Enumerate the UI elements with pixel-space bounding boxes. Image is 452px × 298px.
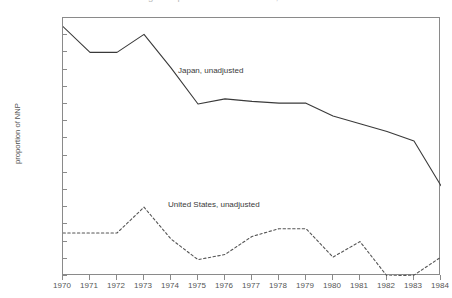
japan-series-annotation: Japan, unadjusted	[178, 66, 243, 75]
united-states-series-annotation: United States, unadjusted	[168, 200, 260, 209]
plot-lines	[63, 18, 441, 276]
united-states-line	[63, 207, 441, 276]
plot-area	[62, 17, 440, 275]
japan-line	[63, 27, 441, 186]
x-tick-label: 1984	[420, 281, 452, 290]
chart-figure: Saving in Japan and United States, 1970-…	[0, 0, 452, 298]
y-axis-label: proportion of NNP	[13, 69, 22, 199]
chart-title: Saving in Japan and United States, 1970-…	[0, 0, 452, 2]
